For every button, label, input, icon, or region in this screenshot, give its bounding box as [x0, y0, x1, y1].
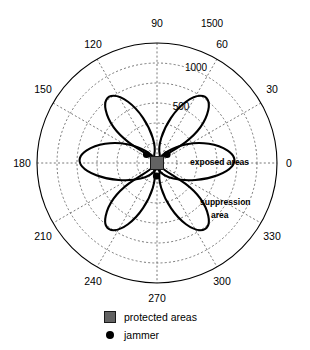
legend-square-marker: [105, 312, 116, 323]
annotation-suppression-line2: area: [211, 210, 229, 220]
legend-dot-marker: [106, 331, 114, 339]
angle-label-120: 120: [84, 38, 102, 50]
angle-label-240: 240: [84, 275, 102, 287]
chart-legend: protected areas jammer: [105, 311, 197, 341]
angle-label-60: 60: [216, 38, 228, 50]
angle-label-0: 0: [286, 157, 292, 169]
angle-label-30: 30: [266, 83, 278, 95]
angle-label-300: 300: [213, 275, 231, 287]
legend-label-jammer: jammer: [123, 329, 160, 341]
jammer-marker-below: [153, 172, 160, 179]
polar-plot-svg: 0 30 60 90 120 150 180 210 240 270 300 3…: [0, 0, 310, 350]
plot-annotations: exposed areas suppression area: [190, 157, 251, 220]
angle-label-330: 330: [263, 230, 281, 242]
radial-axis-labels: 500 1000 1500: [173, 18, 224, 112]
legend-label-protected-areas: protected areas: [124, 311, 197, 323]
angle-label-150: 150: [34, 83, 52, 95]
annotation-exposed-areas: exposed areas: [190, 157, 249, 167]
radial-label-1000: 1000: [185, 62, 208, 73]
jammer-marker-upper-left: [143, 151, 150, 158]
jammer-marker-upper-right: [163, 151, 170, 158]
polar-chart-figure: 0 30 60 90 120 150 180 210 240 270 300 3…: [0, 0, 310, 350]
radial-label-500: 500: [173, 101, 190, 112]
angle-label-210: 210: [34, 230, 52, 242]
protected-areas-marker: [151, 157, 164, 170]
annotation-suppression-line1: suppression: [200, 197, 251, 207]
pattern-petal-240: [105, 163, 157, 230]
angle-label-270: 270: [148, 292, 166, 304]
radial-label-1500: 1500: [201, 18, 224, 29]
pattern-petal-180: [80, 143, 157, 180]
angle-label-90: 90: [151, 17, 163, 29]
angle-label-180: 180: [13, 157, 31, 169]
